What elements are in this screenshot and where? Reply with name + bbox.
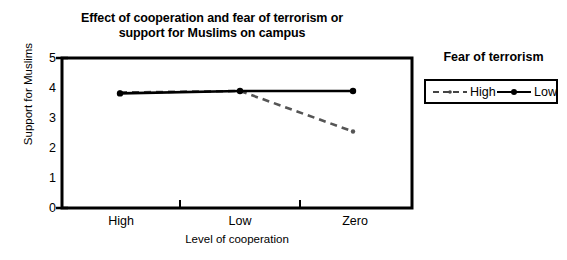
x-tick-label-zero: Zero: [310, 214, 400, 228]
series-line-high: [120, 91, 353, 132]
legend-sample-solid-line-icon: [496, 86, 532, 98]
series-layer: [117, 88, 356, 134]
legend-sample-dashed-line-icon: [432, 86, 468, 98]
chart-figure: Effect of cooperation and fear of terror…: [0, 0, 567, 260]
series-line-low: [120, 91, 353, 93]
data-point-low-zero: [350, 88, 356, 94]
legend-entry-low[interactable]: Low: [496, 81, 557, 102]
legend-title: Fear of terrorism: [420, 50, 567, 64]
x-tick-label-high: High: [76, 214, 166, 228]
x-axis-label: Level of cooperation: [62, 233, 412, 245]
axis-frame: [62, 58, 412, 208]
legend-entry-high[interactable]: High: [432, 81, 496, 102]
x-tick-label-low: Low: [195, 214, 285, 228]
legend-label-high: High: [470, 86, 496, 98]
legend-label-low: Low: [534, 86, 557, 98]
data-point-low-high: [117, 90, 123, 96]
legend-box: High Low: [424, 79, 558, 104]
data-point-low-low: [237, 88, 243, 94]
data-point-high-zero: [351, 129, 355, 133]
